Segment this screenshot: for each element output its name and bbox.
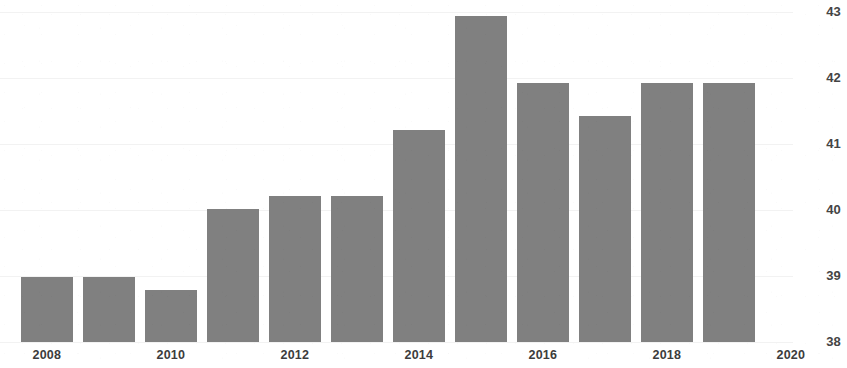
y-tick-label: 41 bbox=[826, 137, 841, 151]
x-tick-label: 2012 bbox=[281, 348, 310, 363]
x-tick-label: 2020 bbox=[777, 348, 806, 363]
bar bbox=[517, 83, 569, 342]
y-tick-label: 38 bbox=[826, 335, 841, 349]
bar bbox=[393, 130, 445, 342]
bar bbox=[641, 83, 693, 342]
bar bbox=[83, 277, 135, 342]
gridline bbox=[0, 78, 793, 79]
x-axis: 2008201020122014201620182020 bbox=[0, 348, 847, 368]
x-tick-label: 2018 bbox=[653, 348, 682, 363]
x-tick-label: 2016 bbox=[529, 348, 558, 363]
bar bbox=[21, 277, 73, 342]
bar bbox=[331, 196, 383, 342]
y-tick-label: 39 bbox=[826, 269, 841, 283]
y-tick-label: 42 bbox=[826, 71, 841, 85]
y-tick-label: 43 bbox=[826, 5, 841, 19]
y-axis: 434241403938 bbox=[793, 0, 847, 368]
x-tick-label: 2008 bbox=[33, 348, 62, 363]
bar bbox=[145, 290, 197, 342]
bar bbox=[703, 83, 755, 342]
x-tick-label: 2014 bbox=[405, 348, 434, 363]
bar bbox=[455, 16, 507, 342]
bar bbox=[269, 196, 321, 342]
bar bbox=[207, 209, 259, 342]
plot-area bbox=[0, 0, 793, 368]
bar bbox=[579, 116, 631, 342]
y-tick-label: 40 bbox=[826, 203, 841, 217]
x-tick-label: 2010 bbox=[157, 348, 186, 363]
gridline bbox=[0, 342, 793, 343]
bar-chart: 434241403938 200820102012201420162018202… bbox=[0, 0, 847, 368]
gridline bbox=[0, 12, 793, 13]
